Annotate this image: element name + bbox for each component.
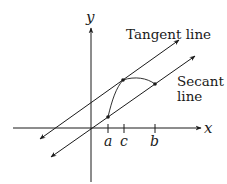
x-axis-label: x — [204, 119, 213, 137]
secant-line-label-1: Secant — [177, 73, 225, 89]
tick-label-c: c — [120, 133, 128, 149]
function-curve — [108, 78, 155, 117]
y-axis-label: y — [85, 8, 95, 26]
secant-line-label-2: line — [177, 88, 202, 104]
mvt-diagram: y x a c b Tangent line Secant line — [0, 0, 227, 184]
point-c — [121, 78, 125, 82]
point-a — [106, 115, 110, 119]
tick-label-b: b — [150, 133, 159, 149]
point-b — [153, 82, 157, 86]
tangent-line-label: Tangent line — [126, 26, 211, 42]
tick-label-a: a — [104, 133, 112, 149]
tangent-line — [40, 40, 179, 139]
